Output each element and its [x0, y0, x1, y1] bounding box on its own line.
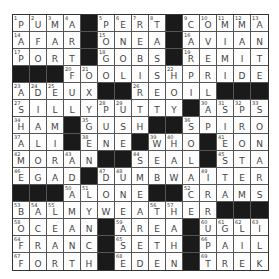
- grid-cell[interactable]: H: [132, 117, 149, 134]
- grid-cell[interactable]: 63I: [251, 219, 268, 236]
- grid-cell[interactable]: E: [234, 168, 251, 185]
- grid-cell[interactable]: 19R: [183, 49, 200, 66]
- grid-cell[interactable]: E: [149, 151, 166, 168]
- grid-cell[interactable]: 65S: [115, 236, 132, 253]
- grid-cell[interactable]: T: [64, 253, 81, 270]
- grid-cell[interactable]: L: [183, 151, 200, 168]
- grid-cell[interactable]: A: [166, 151, 183, 168]
- grid-cell[interactable]: G: [30, 168, 47, 185]
- grid-cell[interactable]: Y: [81, 202, 98, 219]
- grid-cell[interactable]: 27S: [13, 100, 30, 117]
- grid-cell[interactable]: 22H: [166, 66, 183, 83]
- grid-cell[interactable]: M: [64, 202, 81, 219]
- grid-cell[interactable]: 31S: [217, 100, 234, 117]
- grid-cell[interactable]: 6E: [115, 15, 132, 32]
- grid-cell[interactable]: E: [183, 202, 200, 219]
- grid-cell[interactable]: Y: [166, 100, 183, 117]
- grid-cell[interactable]: E: [115, 202, 132, 219]
- grid-cell[interactable]: P: [183, 66, 200, 83]
- grid-cell[interactable]: A: [234, 32, 251, 49]
- grid-cell[interactable]: O: [30, 49, 47, 66]
- grid-cell[interactable]: N: [251, 32, 268, 49]
- grid-cell[interactable]: E: [132, 32, 149, 49]
- grid-cell[interactable]: 39W: [149, 134, 166, 151]
- grid-cell[interactable]: R: [47, 253, 64, 270]
- grid-cell[interactable]: 20F: [64, 66, 81, 83]
- grid-cell[interactable]: 67F: [13, 253, 30, 270]
- grid-cell[interactable]: F: [30, 32, 47, 49]
- grid-cell[interactable]: T: [149, 236, 166, 253]
- grid-cell[interactable]: 54A: [30, 202, 47, 219]
- grid-cell[interactable]: A: [47, 32, 64, 49]
- grid-cell[interactable]: I: [217, 32, 234, 49]
- grid-cell[interactable]: O: [166, 83, 183, 100]
- grid-cell[interactable]: A: [149, 32, 166, 49]
- grid-cell[interactable]: I: [47, 134, 64, 151]
- grid-cell[interactable]: 23A: [13, 83, 30, 100]
- grid-cell[interactable]: 61G: [217, 219, 234, 236]
- grid-cell[interactable]: I: [132, 66, 149, 83]
- grid-cell[interactable]: 42M: [13, 151, 30, 168]
- grid-cell[interactable]: I: [30, 100, 47, 117]
- grid-cell[interactable]: 1P: [13, 15, 30, 32]
- grid-cell[interactable]: L: [200, 83, 217, 100]
- grid-cell[interactable]: 55L: [47, 202, 64, 219]
- grid-cell[interactable]: 15O: [98, 32, 115, 49]
- grid-cell[interactable]: S: [251, 185, 268, 202]
- grid-cell[interactable]: R: [64, 32, 81, 49]
- grid-cell[interactable]: A: [217, 236, 234, 253]
- grid-cell[interactable]: O: [251, 117, 268, 134]
- grid-cell[interactable]: A: [47, 236, 64, 253]
- grid-cell[interactable]: 17P: [13, 49, 30, 66]
- grid-cell[interactable]: A: [30, 117, 47, 134]
- grid-cell[interactable]: T: [234, 151, 251, 168]
- grid-cell[interactable]: N: [98, 134, 115, 151]
- grid-cell[interactable]: 32P: [234, 100, 251, 117]
- grid-cell[interactable]: 2U: [30, 15, 47, 32]
- grid-cell[interactable]: I: [234, 236, 251, 253]
- grid-cell[interactable]: 68E: [115, 253, 132, 270]
- grid-cell[interactable]: 33S: [251, 100, 268, 117]
- grid-cell[interactable]: 24D: [30, 83, 47, 100]
- grid-cell[interactable]: 57H: [166, 202, 183, 219]
- grid-cell[interactable]: E: [115, 134, 132, 151]
- grid-cell[interactable]: M: [217, 49, 234, 66]
- grid-cell[interactable]: R: [217, 253, 234, 270]
- grid-cell[interactable]: D: [64, 168, 81, 185]
- grid-cell[interactable]: 45S: [217, 151, 234, 168]
- grid-cell[interactable]: R: [132, 219, 149, 236]
- grid-cell[interactable]: W: [166, 168, 183, 185]
- grid-cell[interactable]: 8T: [149, 15, 166, 32]
- grid-cell[interactable]: R: [200, 202, 217, 219]
- grid-cell[interactable]: T: [149, 100, 166, 117]
- grid-cell[interactable]: E: [234, 253, 251, 270]
- grid-cell[interactable]: T: [132, 100, 149, 117]
- grid-cell[interactable]: S: [149, 49, 166, 66]
- grid-cell[interactable]: T: [217, 168, 234, 185]
- grid-cell[interactable]: M: [234, 185, 251, 202]
- grid-cell[interactable]: I: [217, 66, 234, 83]
- grid-cell[interactable]: S: [115, 117, 132, 134]
- grid-cell[interactable]: M: [47, 117, 64, 134]
- grid-cell[interactable]: 30A: [200, 100, 217, 117]
- grid-cell[interactable]: E: [149, 219, 166, 236]
- grid-cell[interactable]: U: [98, 117, 115, 134]
- grid-cell[interactable]: E: [47, 219, 64, 236]
- grid-cell[interactable]: N: [115, 32, 132, 49]
- grid-cell[interactable]: X: [81, 83, 98, 100]
- grid-cell[interactable]: 60U: [200, 219, 217, 236]
- grid-cell[interactable]: 14A: [13, 32, 30, 49]
- grid-cell[interactable]: 52C: [183, 185, 200, 202]
- grid-cell[interactable]: A: [251, 151, 268, 168]
- grid-cell[interactable]: 56T: [149, 202, 166, 219]
- grid-cell[interactable]: T: [251, 49, 268, 66]
- grid-cell[interactable]: O: [183, 134, 200, 151]
- grid-cell[interactable]: I: [217, 117, 234, 134]
- grid-cell[interactable]: 64F: [13, 236, 30, 253]
- grid-cell[interactable]: 46E: [13, 168, 30, 185]
- grid-cell[interactable]: K: [251, 253, 268, 270]
- grid-cell[interactable]: 5P: [98, 15, 115, 32]
- grid-cell[interactable]: 58O: [13, 219, 30, 236]
- grid-cell[interactable]: 62L: [234, 219, 251, 236]
- grid-cell[interactable]: A: [166, 219, 183, 236]
